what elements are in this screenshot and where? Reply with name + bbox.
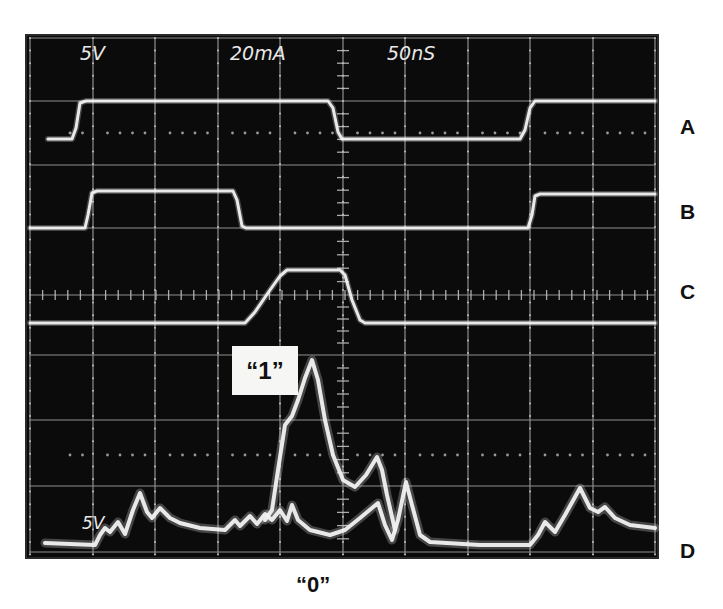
reference-dot xyxy=(619,454,622,457)
reference-dot xyxy=(369,132,372,135)
reference-dot xyxy=(644,132,647,135)
reference-dot xyxy=(194,132,197,135)
reference-dot xyxy=(169,454,172,457)
reference-dot xyxy=(569,454,572,457)
reference-dot xyxy=(181,454,184,457)
reference-dot xyxy=(244,454,247,457)
lower-scale-readout: 5V xyxy=(82,513,106,533)
reference-dot xyxy=(481,454,484,457)
ch2-scale-readout: 20mA xyxy=(230,42,286,64)
reference-dot xyxy=(631,132,634,135)
reference-dot xyxy=(269,132,272,135)
reference-dot xyxy=(319,132,322,135)
trace-label-b: B xyxy=(680,200,695,224)
reference-dot xyxy=(81,132,84,135)
reference-dot xyxy=(381,454,384,457)
logic-one-label: “1” xyxy=(232,346,298,395)
reference-dot xyxy=(319,454,322,457)
reference-dot xyxy=(431,132,434,135)
reference-dot xyxy=(606,454,609,457)
reference-dot xyxy=(169,132,172,135)
reference-dot xyxy=(256,132,259,135)
reference-dot xyxy=(519,454,522,457)
reference-dot xyxy=(419,132,422,135)
timebase-readout: 50nS xyxy=(387,42,435,64)
reference-dot xyxy=(244,132,247,135)
reference-dot xyxy=(431,454,434,457)
reference-dot xyxy=(294,454,297,457)
reference-dot xyxy=(506,132,509,135)
reference-dot xyxy=(106,454,109,457)
reference-dot xyxy=(456,132,459,135)
reference-dot xyxy=(269,454,272,457)
reference-dot xyxy=(419,454,422,457)
reference-dot xyxy=(356,132,359,135)
trace-label-d: D xyxy=(680,539,695,563)
reference-dot xyxy=(394,132,397,135)
reference-dot xyxy=(506,454,509,457)
reference-dot xyxy=(456,454,459,457)
reference-dot xyxy=(181,132,184,135)
reference-dot xyxy=(119,132,122,135)
reference-dot xyxy=(631,454,634,457)
trace-label-a: A xyxy=(680,115,695,139)
reference-dot xyxy=(369,454,372,457)
reference-dot xyxy=(544,132,547,135)
reference-dot xyxy=(231,132,234,135)
reference-dot xyxy=(581,454,584,457)
oscilloscope-display: 5V 20mA 50nS 5V xyxy=(0,0,723,609)
reference-dot xyxy=(619,132,622,135)
reference-dot xyxy=(481,132,484,135)
reference-dot xyxy=(444,132,447,135)
reference-dot xyxy=(231,454,234,457)
reference-dot xyxy=(331,132,334,135)
reference-dot xyxy=(256,454,259,457)
reference-dot xyxy=(131,454,134,457)
reference-dot xyxy=(644,454,647,457)
reference-dot xyxy=(306,454,309,457)
trace-label-c: C xyxy=(680,280,695,304)
reference-dot xyxy=(144,132,147,135)
reference-dot xyxy=(306,132,309,135)
reference-dot xyxy=(356,454,359,457)
reference-dot xyxy=(119,454,122,457)
reference-dot xyxy=(606,132,609,135)
reference-dot xyxy=(294,132,297,135)
reference-dot xyxy=(569,132,572,135)
reference-dot xyxy=(194,454,197,457)
ch1-scale-readout: 5V xyxy=(80,42,107,64)
reference-dot xyxy=(494,454,497,457)
reference-dot xyxy=(444,454,447,457)
reference-dot xyxy=(206,132,209,135)
reference-dot xyxy=(69,454,72,457)
reference-dot xyxy=(81,454,84,457)
reference-dot xyxy=(381,132,384,135)
reference-dot xyxy=(206,454,209,457)
reference-dot xyxy=(106,132,109,135)
reference-dot xyxy=(544,454,547,457)
reference-dot xyxy=(556,454,559,457)
reference-dot xyxy=(494,132,497,135)
reference-dot xyxy=(581,132,584,135)
reference-dot xyxy=(131,132,134,135)
logic-zero-label: “0” xyxy=(296,572,330,598)
reference-dot xyxy=(144,454,147,457)
reference-dot xyxy=(394,454,397,457)
reference-dot xyxy=(556,132,559,135)
